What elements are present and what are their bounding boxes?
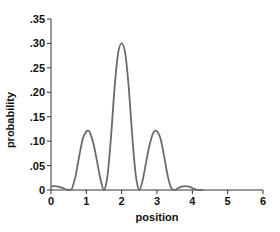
- x-axis: 0123456: [48, 190, 266, 207]
- y-tick-label: .15: [30, 111, 45, 123]
- y-tick-label: .35: [30, 13, 45, 25]
- y-axis-label: probability: [4, 91, 16, 148]
- x-tick-label: 2: [119, 195, 125, 207]
- x-tick-label: 5: [225, 195, 231, 207]
- x-tick-label: 6: [260, 195, 266, 207]
- x-tick-label: 0: [48, 195, 54, 207]
- x-tick-label: 3: [154, 195, 160, 207]
- y-tick-label: .05: [30, 160, 45, 172]
- y-tick-label: .25: [30, 62, 45, 74]
- y-tick-label: 0: [39, 184, 45, 196]
- x-axis-label: position: [136, 211, 179, 223]
- y-tick-label: .10: [30, 135, 45, 147]
- y-axis: 0.05.10.15.20.25.30.35: [30, 13, 51, 196]
- x-tick-label: 1: [83, 195, 89, 207]
- y-tick-label: .30: [30, 37, 45, 49]
- y-tick-label: .20: [30, 86, 45, 98]
- x-tick-label: 4: [189, 195, 196, 207]
- probability-curve: [51, 43, 203, 190]
- chart: 0.05.10.15.20.25.30.35 0123456 position …: [0, 0, 280, 232]
